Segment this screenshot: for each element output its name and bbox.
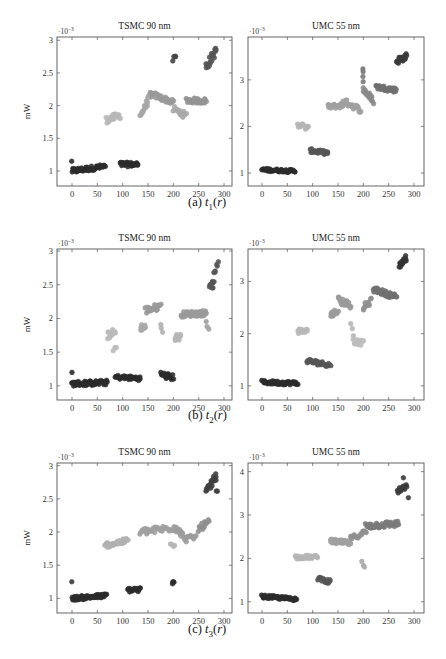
caption-label: (a)	[188, 195, 202, 209]
data-point	[69, 159, 74, 164]
data-point	[105, 380, 110, 385]
data-point	[315, 555, 320, 560]
y-axis-label: mW	[22, 530, 32, 546]
x-tick-label: 100	[116, 616, 129, 626]
data-point	[396, 522, 401, 527]
data-point	[361, 338, 366, 343]
data-point	[359, 109, 364, 114]
x-tick-label: 300	[408, 189, 421, 199]
y-tick-label: 2	[49, 313, 53, 323]
y-tick-label: 1.5	[42, 347, 53, 357]
data-point	[361, 74, 366, 79]
x-tick-label: 250	[382, 403, 395, 413]
data-point	[104, 592, 109, 597]
data-point	[362, 565, 367, 570]
data-point	[171, 99, 176, 104]
scatter-plots: TSMC 90 nm·10−3mW05010015020025030011.52…	[0, 0, 446, 659]
subfigure-caption-b: (b) t2(r)	[188, 408, 227, 425]
chart-title: TSMC 90 nm	[118, 447, 171, 457]
y-tick-label: 2	[49, 527, 53, 537]
data-point	[349, 304, 354, 309]
y-tick-label: 1	[49, 593, 53, 603]
x-tick-label: 0	[260, 189, 264, 199]
data-point	[103, 164, 108, 169]
y-scale-note: ·10−3	[249, 26, 265, 36]
caption-arg: r	[217, 195, 222, 209]
data-point	[210, 484, 215, 489]
y-tick-label: 2.5	[42, 68, 53, 78]
data-point	[348, 321, 353, 326]
x-tick-label: 150	[332, 189, 345, 199]
data-point	[371, 101, 376, 106]
data-point	[216, 260, 221, 265]
x-tick-label: 0	[70, 189, 74, 199]
x-tick-label: 50	[93, 403, 102, 413]
data-point	[336, 309, 341, 314]
data-point	[172, 543, 177, 548]
caption-sub: 1	[208, 202, 213, 212]
y-tick-label: 2.5	[42, 280, 53, 290]
data-point	[361, 69, 366, 74]
y-tick-label: 4	[240, 467, 245, 477]
data-point	[214, 47, 219, 52]
y-tick-label: 2	[240, 121, 244, 131]
x-tick-label: 300	[408, 403, 421, 413]
x-tick-label: 50	[283, 189, 292, 199]
data-point	[215, 489, 220, 494]
chart-title: TSMC 90 nm	[118, 21, 171, 31]
data-point	[207, 519, 212, 524]
x-tick-label: 200	[167, 189, 180, 199]
data-point	[293, 170, 298, 175]
x-tick-label: 50	[283, 616, 292, 626]
data-point	[118, 116, 123, 121]
x-tick-label: 150	[142, 189, 155, 199]
data-point	[394, 295, 399, 300]
data-point	[404, 53, 409, 58]
y-scale-note: ·10−3	[249, 452, 265, 462]
x-tick-label: 150	[142, 403, 155, 413]
data-point	[160, 330, 165, 335]
data-point	[136, 162, 141, 167]
x-tick-label: 200	[357, 616, 370, 626]
x-tick-label: 250	[382, 189, 395, 199]
data-point	[184, 111, 189, 116]
data-point	[325, 151, 330, 156]
x-tick-label: 50	[93, 189, 102, 199]
data-point	[178, 332, 183, 337]
x-tick-label: 100	[116, 403, 129, 413]
y-tick-label: 1	[49, 166, 53, 176]
data-points	[70, 472, 220, 603]
data-point	[214, 475, 219, 480]
caption-arg: r	[218, 408, 223, 422]
chart-title: UMC 55 nm	[312, 233, 361, 243]
data-point	[204, 319, 209, 324]
data-point	[113, 331, 118, 336]
data-point	[145, 100, 150, 105]
y-tick-label: 2	[240, 329, 244, 339]
y-tick-label: 3	[49, 461, 53, 471]
subfigure-caption-c: (c) t3(r)	[188, 622, 226, 639]
data-point	[348, 541, 353, 546]
caption-sub: 2	[209, 415, 214, 425]
y-scale-note: ·10−3	[58, 452, 74, 462]
caption-label: (c)	[188, 622, 202, 636]
y-tick-label: 1.5	[42, 560, 53, 570]
y-axis-label: mW	[22, 103, 32, 119]
data-point	[367, 302, 372, 307]
chart-title: TSMC 90 nm	[118, 233, 171, 243]
data-points	[260, 52, 410, 175]
y-scale-note: ·10−3	[58, 238, 74, 248]
scatter-chart: UMC 55 nm·10−3050100150200250300123	[240, 21, 424, 199]
scatter-chart: UMC 55 nm·10−3050100150200250300123	[240, 233, 424, 413]
x-tick-label: 200	[357, 403, 370, 413]
x-tick-label: 100	[306, 189, 319, 199]
y-axis-label: mW	[22, 316, 32, 332]
data-point	[394, 87, 399, 92]
x-tick-label: 0	[70, 616, 74, 626]
x-tick-label: 300	[408, 616, 421, 626]
x-tick-label: 0	[260, 403, 264, 413]
x-tick-label: 100	[306, 616, 319, 626]
x-tick-label: 150	[332, 403, 345, 413]
scatter-chart: UMC 55 nm·10−30501001502002503001234	[240, 447, 424, 626]
data-point	[207, 327, 212, 332]
